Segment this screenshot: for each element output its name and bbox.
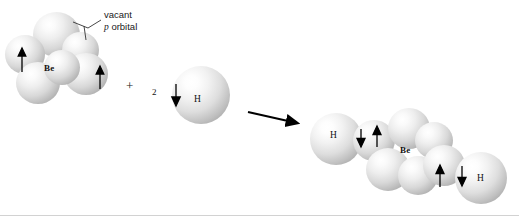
be-spin-arrow-right: [96, 66, 104, 89]
product-bond-left-spin-up: [373, 126, 381, 147]
product-bond-left-spin-down: [357, 129, 365, 147]
product-bond-right-spin-down: [458, 166, 466, 186]
reaction-arrow: [248, 112, 288, 121]
hydrogen-spin-arrow: [172, 84, 180, 106]
diagram-canvas: Be H Be H 2 H + vacant p orbital: [0, 0, 519, 223]
vector-overlay: [0, 0, 519, 223]
callout-leader-line: [73, 20, 101, 40]
be-spin-arrow-left: [18, 48, 26, 72]
bottom-divider: [0, 215, 519, 216]
product-bond-right-spin-up: [436, 165, 444, 187]
